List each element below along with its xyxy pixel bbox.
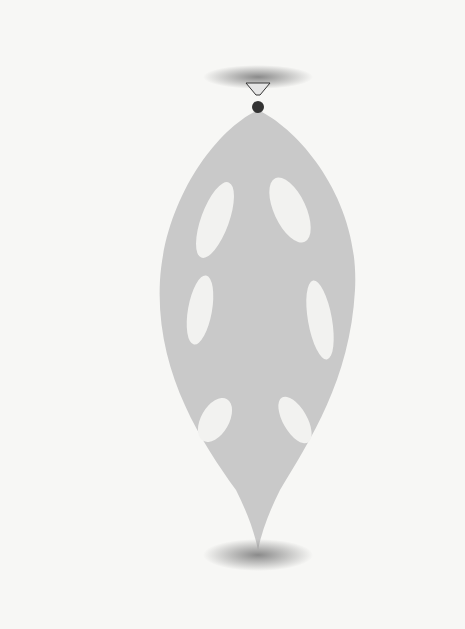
rotating-body: [160, 110, 356, 550]
top-bearing: [203, 65, 313, 113]
bottom-bearing: [203, 539, 313, 571]
diagram-canvas: [0, 0, 465, 629]
